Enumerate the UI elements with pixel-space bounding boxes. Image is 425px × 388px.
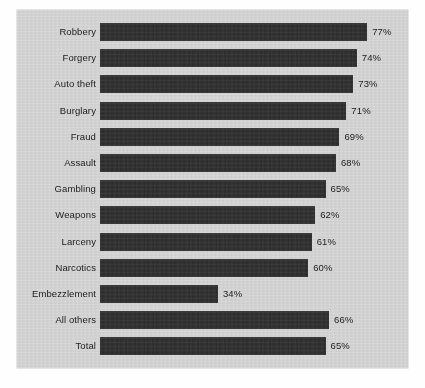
bar-chart-figure: Robbery77%Forgery74%Auto theft73%Burglar…: [0, 0, 425, 388]
bar-row: Forgery74%: [17, 49, 408, 66]
bar-category-label: Gambling: [17, 179, 96, 198]
bar-row: Fraud69%: [17, 128, 408, 145]
bar-value-label: 71%: [351, 101, 370, 120]
bar-row: Assault68%: [17, 154, 408, 171]
bar-row: Narcotics60%: [17, 259, 408, 276]
bar-track: 73%: [100, 75, 408, 92]
bar-value-label: 66%: [334, 310, 353, 329]
bar-row: Total65%: [17, 337, 408, 354]
bar: [100, 311, 329, 329]
bar-track: 66%: [100, 311, 408, 328]
bar-track: 61%: [100, 233, 408, 250]
bar-value-label: 69%: [344, 127, 363, 146]
bar-value-label: 65%: [331, 179, 350, 198]
bar: [100, 233, 312, 251]
bar-value-label: 60%: [313, 258, 332, 277]
bar-row: All others66%: [17, 311, 408, 328]
bar-value-label: 34%: [223, 284, 242, 303]
bar-track: 62%: [100, 206, 408, 223]
bar-rows-container: Robbery77%Forgery74%Auto theft73%Burglar…: [17, 10, 408, 368]
bar-track: 60%: [100, 259, 408, 276]
bar-track: 77%: [100, 23, 408, 40]
bar: [100, 154, 336, 172]
bar-value-label: 68%: [341, 153, 360, 172]
bar-track: 74%: [100, 49, 408, 66]
bar-value-label: 62%: [320, 205, 339, 224]
bar: [100, 49, 357, 67]
bar-category-label: Forgery: [17, 48, 96, 67]
bar: [100, 180, 326, 198]
bar-category-label: Narcotics: [17, 258, 96, 277]
bar: [100, 102, 346, 120]
bar-category-label: Fraud: [17, 127, 96, 146]
bar-value-label: 74%: [362, 48, 381, 67]
bar: [100, 128, 339, 146]
bar: [100, 259, 308, 277]
bar: [100, 23, 367, 41]
bar: [100, 206, 315, 224]
bar-category-label: Total: [17, 336, 96, 355]
bar-track: 65%: [100, 337, 408, 354]
bar: [100, 337, 326, 355]
bar-category-label: Weapons: [17, 205, 96, 224]
bar-category-label: Burglary: [17, 101, 96, 120]
bar-value-label: 73%: [358, 74, 377, 93]
bar-row: Robbery77%: [17, 23, 408, 40]
bar-category-label: Robbery: [17, 22, 96, 41]
bar-track: 34%: [100, 285, 408, 302]
bar-row: Gambling65%: [17, 180, 408, 197]
bar: [100, 285, 218, 303]
bar-track: 69%: [100, 128, 408, 145]
bar: [100, 75, 353, 93]
bar-track: 68%: [100, 154, 408, 171]
bar-value-label: 61%: [317, 232, 336, 251]
bar-category-label: Assault: [17, 153, 96, 172]
bar-row: Embezzlement34%: [17, 285, 408, 302]
bar-row: Auto theft73%: [17, 75, 408, 92]
bar-category-label: Larceny: [17, 232, 96, 251]
bar-category-label: Auto theft: [17, 74, 96, 93]
bar-value-label: 65%: [331, 336, 350, 355]
bar-row: Larceny61%: [17, 233, 408, 250]
bar-track: 65%: [100, 180, 408, 197]
bar-category-label: Embezzlement: [17, 284, 96, 303]
bar-category-label: All others: [17, 310, 96, 329]
bar-row: Burglary71%: [17, 102, 408, 119]
chart-plot-panel: Robbery77%Forgery74%Auto theft73%Burglar…: [17, 10, 408, 368]
bar-value-label: 77%: [372, 22, 391, 41]
bar-track: 71%: [100, 102, 408, 119]
bar-row: Weapons62%: [17, 206, 408, 223]
